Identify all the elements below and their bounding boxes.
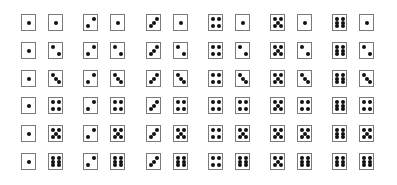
pip-dot (306, 100, 310, 104)
die-face-2 (83, 97, 98, 114)
pip-dot (211, 135, 215, 139)
pip-dot (244, 80, 248, 84)
pip-dot (182, 80, 186, 84)
die-face-3 (146, 70, 161, 87)
pip-dot (217, 17, 221, 21)
pip-dot (119, 52, 123, 56)
die-face-2 (83, 14, 98, 31)
pip-dot (149, 24, 153, 28)
die-face-5 (270, 42, 285, 59)
pip-dot (27, 160, 31, 164)
pip-dot (86, 163, 90, 167)
die-face-6 (110, 153, 125, 170)
die-face-5 (235, 125, 250, 142)
die-face-2 (48, 42, 63, 59)
pip-dot (149, 135, 153, 139)
pip-dot (279, 24, 283, 28)
pip-dot (335, 24, 339, 28)
pip-dot (155, 100, 159, 104)
die-face-4 (110, 97, 125, 114)
pip-dot (155, 128, 159, 132)
pip-dot (217, 24, 221, 28)
die-face-3 (359, 70, 374, 87)
pip-dot (182, 100, 186, 104)
pip-dot (149, 163, 153, 167)
pip-dot (152, 49, 156, 53)
die-face-6 (173, 153, 188, 170)
pip-dot (119, 80, 123, 84)
die-face-2 (83, 70, 98, 87)
pip-dot (217, 128, 221, 132)
pip-dot (335, 52, 339, 56)
die-face-3 (48, 70, 63, 87)
die-face-3 (146, 42, 161, 59)
pip-dot (152, 21, 156, 25)
pip-dot (211, 107, 215, 111)
die-face-4 (173, 97, 188, 114)
pip-dot (51, 45, 55, 49)
pip-dot (116, 21, 120, 25)
die-face-6 (332, 97, 347, 114)
pip-dot (155, 45, 159, 49)
pip-dot (238, 163, 242, 167)
pip-dot (57, 80, 61, 84)
pip-dot (182, 135, 186, 139)
pip-dot (51, 163, 55, 167)
die-face-5 (173, 125, 188, 142)
pip-dot (92, 17, 96, 21)
pip-dot (362, 135, 366, 139)
pip-dot (149, 107, 153, 111)
pip-dot (368, 80, 372, 84)
pip-dot (182, 107, 186, 111)
die-face-5 (270, 14, 285, 31)
pip-dot (279, 80, 283, 84)
pip-dot (368, 52, 372, 56)
die-face-2 (83, 153, 98, 170)
pip-dot (113, 163, 117, 167)
pip-dot (341, 107, 345, 111)
die-face-1 (297, 14, 312, 31)
pip-dot (341, 52, 345, 56)
pip-dot (57, 100, 61, 104)
pip-dot (217, 73, 221, 77)
pip-dot (27, 77, 31, 81)
pip-dot (335, 80, 339, 84)
die-face-3 (110, 70, 125, 87)
pip-dot (113, 45, 117, 49)
pip-dot (368, 107, 372, 111)
pip-dot (217, 45, 221, 49)
pip-dot (303, 21, 307, 25)
pip-dot (211, 100, 215, 104)
pip-dot (341, 80, 345, 84)
pip-dot (119, 135, 123, 139)
die-face-6 (359, 153, 374, 170)
die-face-2 (297, 42, 312, 59)
pip-dot (300, 107, 304, 111)
die-face-6 (332, 125, 347, 142)
pip-dot (119, 163, 123, 167)
pip-dot (341, 163, 345, 167)
pip-dot (92, 128, 96, 132)
pip-dot (86, 107, 90, 111)
pip-dot (182, 163, 186, 167)
die-face-6 (48, 153, 63, 170)
die-face-6 (297, 153, 312, 170)
die-face-5 (270, 153, 285, 170)
pip-dot (306, 135, 310, 139)
die-face-3 (235, 70, 250, 87)
pip-dot (179, 21, 183, 25)
pip-dot (119, 100, 123, 104)
pip-dot (152, 132, 156, 136)
pip-dot (341, 135, 345, 139)
pip-dot (335, 135, 339, 139)
pip-dot (152, 77, 156, 81)
pip-dot (238, 45, 242, 49)
pip-dot (92, 100, 96, 104)
die-face-3 (173, 70, 188, 87)
pip-dot (217, 135, 221, 139)
pip-dot (176, 163, 180, 167)
pip-dot (300, 100, 304, 104)
die-face-1 (21, 125, 36, 142)
pip-dot (57, 163, 61, 167)
pip-dot (27, 21, 31, 25)
